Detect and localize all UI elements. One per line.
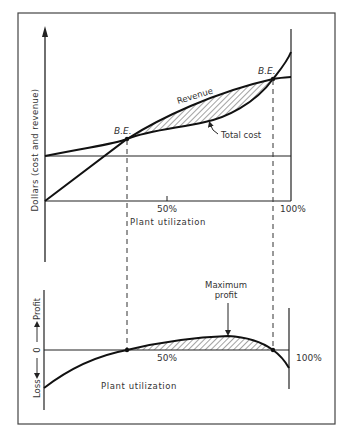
total-cost-leader-arrow [210, 124, 218, 134]
max-profit-label-line1: Maximum [205, 280, 247, 290]
max-profit-label-line2: profit [215, 290, 238, 300]
lower-y-loss-label: Loss [32, 379, 42, 398]
lower-y-zero-label: 0 [32, 347, 42, 352]
upper-y-axis-label: Dollars (cost and revenue) [30, 88, 40, 211]
lower-tick-100-label: 100% [296, 353, 322, 363]
lower-break-even-point-right [271, 348, 275, 352]
lower-y-profit-label: Profit [32, 297, 42, 320]
lower-y-axis-label: Loss 0 Profit [32, 297, 42, 398]
lower-x-axis-label: Plant utilization [101, 381, 177, 391]
upper-chart: B.E. B.E. Revenue Total cost 50% 100% Pl… [30, 26, 306, 262]
upper-x-axis-label: Plant utilization [130, 217, 206, 227]
upper-y-axis-arrow-icon [42, 26, 48, 37]
be-left-label: B.E. [114, 126, 132, 136]
be-right-label: B.E. [258, 66, 276, 76]
total-cost-label: Total cost [220, 130, 262, 140]
break-even-diagram: B.E. B.E. Revenue Total cost 50% 100% Pl… [0, 0, 349, 440]
lower-tick-50-label: 50% [157, 353, 177, 363]
lower-break-even-point-left [125, 348, 129, 352]
lower-chart: Maximum profit 50% 100% Plant utilizatio… [32, 280, 322, 410]
upper-tick-100-label: 100% [280, 204, 306, 214]
upper-tick-50-label: 50% [157, 204, 177, 214]
